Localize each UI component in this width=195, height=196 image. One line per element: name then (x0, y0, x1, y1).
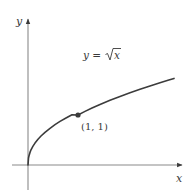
y-axis-label: y (15, 15, 23, 28)
equation-equals: = (89, 49, 101, 61)
equation-label: y = x (82, 49, 121, 62)
sqrt-graph: y x y = x (1, 1) (0, 0, 195, 196)
point-label: (1, 1) (81, 121, 108, 132)
equation-radicand: x (114, 49, 120, 61)
x-axis-label: x (176, 172, 183, 185)
point-1-1-marker (75, 112, 80, 117)
svg-text:y =: y = (82, 49, 101, 61)
